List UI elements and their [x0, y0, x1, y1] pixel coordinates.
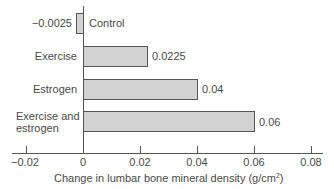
x-tick-label: 0.04: [186, 156, 207, 168]
x-axis-title-end: ): [280, 172, 284, 184]
bar-exercise-and-estrogen: [83, 111, 255, 132]
x-axis-title: Change in lumbar bone mineral density (g…: [54, 172, 284, 184]
bar-exercise: [83, 46, 148, 67]
x-tick-label: 0.06: [243, 156, 264, 168]
category-label-line2: estrogen: [0, 122, 77, 134]
category-label-exercise: Exercise: [0, 50, 77, 62]
bar-estrogen: [83, 79, 198, 100]
value-label-exercise-and-estrogen: 0.06: [259, 116, 280, 128]
category-label-estrogen: Estrogen: [0, 83, 77, 95]
x-tick-label: 0: [80, 156, 86, 168]
x-axis-title-main: Change in lumbar bone mineral density (g…: [54, 172, 276, 184]
x-tick-label: 0.08: [300, 156, 321, 168]
value-label-estrogen: 0.04: [202, 83, 223, 95]
x-tick-label: 0.02: [129, 156, 150, 168]
x-tick-label: −0.02: [11, 156, 39, 168]
bar-control: [76, 13, 84, 34]
category-label-line1: Exercise and: [0, 110, 77, 122]
x-tick: [197, 146, 198, 153]
x-tick: [254, 146, 255, 153]
x-tick: [311, 146, 312, 153]
x-axis-line: [12, 153, 323, 154]
value-label-control: −0.0025: [20, 17, 72, 29]
category-label-control: Control: [89, 17, 124, 29]
category-label-exercise-and-estrogen: Exercise and estrogen: [0, 110, 77, 134]
value-label-exercise: 0.0225: [152, 50, 186, 62]
x-tick: [140, 146, 141, 153]
x-tick: [26, 146, 27, 153]
